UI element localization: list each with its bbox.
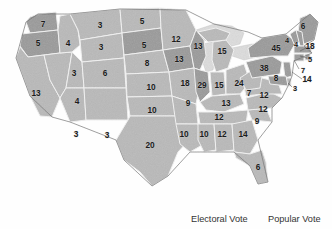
- us-map-container: 7 5 4 3 3 3 13 4 6 3 3 5 5 8 10 10 20 12…: [0, 0, 332, 205]
- label-NM: 3: [105, 130, 110, 140]
- label-LA: 10: [179, 129, 189, 139]
- label-TN: 12: [214, 112, 224, 122]
- caption-electoral-vote: Electoral Vote: [191, 214, 248, 224]
- label-NC: 12: [258, 104, 268, 114]
- us-electoral-map-svg: 7 5 4 3 3 3 13 4 6 3 3 5 5 8 10 10 20 12…: [0, 0, 332, 205]
- label-ME: 6: [301, 21, 306, 31]
- label-CO: 6: [103, 68, 108, 78]
- label-TX: 20: [145, 140, 155, 150]
- label-MD: 8: [274, 73, 279, 83]
- label-WV: 7: [247, 88, 252, 98]
- label-SC: 9: [255, 116, 260, 126]
- label-IL: 29: [197, 80, 207, 90]
- label-MO: 18: [180, 78, 190, 88]
- label-NY: 45: [271, 43, 281, 53]
- label-WY: 3: [99, 42, 104, 52]
- label-VA: 12: [259, 90, 269, 100]
- label-IN: 15: [214, 80, 224, 90]
- label-AZ: 3: [74, 129, 79, 139]
- state-AZ[interactable]: [60, 88, 86, 122]
- label-WI: 13: [193, 41, 203, 51]
- label-IA: 13: [174, 54, 184, 64]
- label-CA: 13: [31, 88, 41, 98]
- label-FL: 6: [256, 162, 261, 172]
- label-MS: 10: [199, 129, 209, 139]
- caption-popular-vote: Popular Vote: [268, 214, 321, 224]
- label-SD: 5: [142, 40, 147, 50]
- state-FL[interactable]: [234, 150, 268, 184]
- label-AR: 9: [186, 98, 191, 108]
- label-OH: 24: [234, 78, 244, 88]
- label-MN: 12: [171, 34, 181, 44]
- label-ND: 5: [140, 16, 145, 26]
- label-AL: 12: [217, 129, 227, 139]
- label-NJ: 14: [302, 74, 312, 84]
- label-DE: 3: [293, 84, 297, 93]
- label-MT: 3: [98, 20, 103, 30]
- label-OK: 10: [147, 105, 157, 115]
- label-UT: 4: [75, 96, 80, 106]
- electoral-map-figure: 7 5 4 3 3 3 13 4 6 3 3 5 5 8 10 10 20 12…: [0, 0, 332, 229]
- label-RI: 5: [308, 55, 312, 64]
- label-KS: 10: [146, 82, 156, 92]
- label-NV: 3: [72, 68, 77, 78]
- label-NE: 8: [145, 58, 150, 68]
- caption-row: Electoral Vote Popular Vote: [0, 206, 332, 226]
- label-MI: 15: [217, 46, 227, 56]
- label-OR: 5: [36, 38, 41, 48]
- label-ID: 4: [66, 38, 71, 48]
- label-MA: 18: [305, 41, 315, 51]
- label-KY: 13: [221, 98, 231, 108]
- label-PA: 38: [259, 63, 269, 73]
- state-NM[interactable]: [84, 88, 128, 120]
- label-GA: 14: [238, 129, 248, 139]
- label-WA: 7: [41, 19, 46, 29]
